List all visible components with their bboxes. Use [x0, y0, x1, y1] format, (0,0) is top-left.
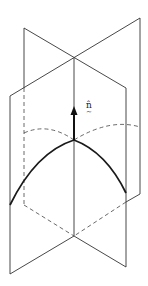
plane-a: [24, 28, 126, 267]
hidden-edges: [24, 88, 140, 236]
vector-tilde-mark: ~: [86, 109, 92, 116]
normal-vector-arrow: [71, 106, 78, 140]
arrowhead-icon: [71, 106, 78, 115]
two-planes-normal-diagram: [0, 0, 148, 286]
surface-curve: [10, 140, 126, 205]
normal-vector-label: n̂ ~: [86, 101, 92, 110]
plane-b: [10, 18, 140, 274]
